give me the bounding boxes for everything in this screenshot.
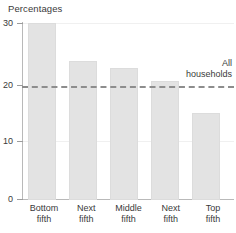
x-label-next-fifth-2: Next fifth [65,201,107,233]
x-label-next-fifth-2-line-2: fifth [65,214,107,225]
x-label-next-fifth-4-line-1: Next [161,203,180,213]
y-axis-line [22,22,23,200]
y-tick-30 [17,23,23,24]
bar-next-fifth-2 [69,61,97,200]
y-axis-label-20: 20 [3,80,13,90]
bar-next-fifth-4 [151,81,179,200]
all-households-reference-label: All households [186,58,232,80]
y-tick-10 [17,141,23,142]
x-label-middle-fifth-line-1: Middle [115,203,142,213]
x-label-next-fifth-4-line-2: fifth [150,214,192,225]
x-label-next-fifth-4: Next fifth [150,201,192,233]
x-axis-labels: Bottom fifth Next fifth Middle fifth Nex… [23,201,234,233]
y-axis-label-10: 10 [3,136,13,146]
x-label-middle-fifth: Middle fifth [107,201,149,233]
reference-label-line-2: households [186,69,232,79]
y-tick-0 [17,199,23,200]
y-axis-label-30: 30 [3,18,13,28]
all-households-reference-line [22,86,234,88]
reference-label-line-1: All [222,58,232,68]
x-label-top-fifth-line-1: Top [206,203,221,213]
bar-top-fifth [192,113,220,200]
x-label-bottom-fifth-line-2: fifth [23,214,65,225]
y-axis-label-0: 0 [8,194,13,204]
x-label-middle-fifth-line-2: fifth [107,214,149,225]
x-label-bottom-fifth: Bottom fifth [23,201,65,233]
x-label-top-fifth-line-2: fifth [192,214,234,225]
chart-title: Percentages [8,3,62,14]
x-label-bottom-fifth-line-1: Bottom [30,203,59,213]
bar-bottom-fifth [28,23,56,200]
x-label-top-fifth: Top fifth [192,201,234,233]
x-label-next-fifth-2-line-1: Next [77,203,96,213]
bar-chart: Percentages 30 20 10 0 All households Bo… [0,0,236,233]
